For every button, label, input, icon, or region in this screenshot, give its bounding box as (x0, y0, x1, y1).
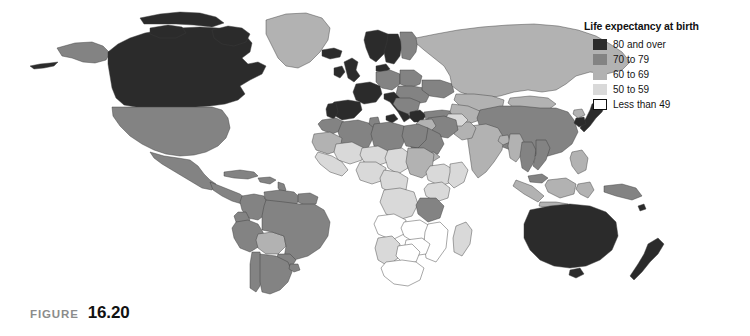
legend-item-50-to-59: 50 to 59 (593, 82, 744, 97)
legend-title: Life expectancy at birth (584, 20, 744, 32)
legend-item-60-to-69: 60 to 69 (593, 67, 744, 82)
figure-caption: FIGURE 16.20 (30, 303, 129, 323)
legend-swatch-80-and-over (593, 39, 607, 50)
legend-label-80-and-over: 80 and over (613, 39, 666, 50)
figure-label: FIGURE (30, 308, 79, 320)
country-iceland (322, 48, 342, 59)
figure-page: Life expectancy at birth 80 and over 70 … (0, 0, 750, 336)
legend-item-70-to-79: 70 to 79 (593, 52, 744, 67)
legend-item-list: 80 and over 70 to 79 60 to 69 50 to 59 L… (593, 37, 744, 112)
legend-label-50-to-59: 50 to 59 (613, 84, 649, 95)
legend-label-less-than-49: Less than 49 (613, 99, 670, 110)
legend-swatch-70-to-79 (593, 54, 607, 65)
legend-swatch-50-to-59 (593, 84, 607, 95)
legend-item-80-and-over: 80 and over (593, 37, 744, 52)
legend-label-70-to-79: 70 to 79 (613, 54, 649, 65)
map-legend: Life expectancy at birth 80 and over 70 … (584, 20, 744, 112)
figure-number: 16.20 (88, 303, 130, 323)
legend-swatch-60-to-69 (593, 69, 607, 80)
legend-item-less-than-49: Less than 49 (593, 97, 744, 112)
legend-label-60-to-69: 60 to 69 (613, 69, 649, 80)
legend-swatch-less-than-49 (593, 99, 607, 110)
